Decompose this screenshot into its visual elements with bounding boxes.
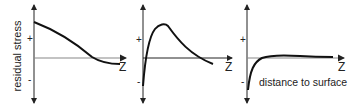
plus-sign-3: + [240,34,246,45]
plus-sign-1: + [27,33,33,44]
panel-1: + - Z [27,5,126,103]
panel-3: + - Z distance to surface [240,5,347,103]
z-label-3: Z [338,60,345,74]
stress-curve-2 [143,24,213,86]
minus-sign-1: - [28,74,31,85]
minus-sign-3: - [241,76,244,87]
residual-stress-diagram: residual stress + - Z + - Z + - [0,0,356,109]
z-label-2: Z [225,60,232,74]
x-axis-caption: distance to surface [259,76,347,88]
y-axis-label: residual stress [11,20,23,91]
minus-sign-2: - [137,76,140,87]
plus-sign-2: + [136,34,142,45]
panel-2: + - Z [136,5,232,103]
z-label-1: Z [119,60,126,74]
